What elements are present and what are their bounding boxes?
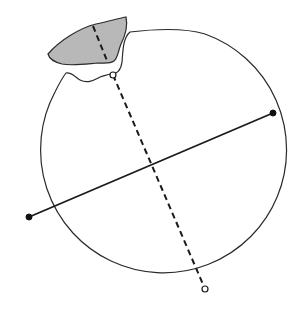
dashed-chord (113, 75, 205, 289)
solid-diameter (29, 113, 273, 217)
dashed-chord-bottom-endpoint (202, 286, 208, 292)
broken-fragment (48, 17, 127, 65)
solid-diameter-left-endpoint (26, 214, 32, 220)
disc-outline (41, 30, 287, 273)
dashed-chord-top-endpoint (110, 72, 116, 78)
broken-disc-diagram (0, 0, 298, 315)
solid-diameter-right-endpoint (270, 110, 276, 116)
